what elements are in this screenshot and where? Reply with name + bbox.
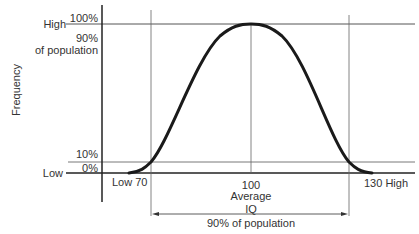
low70-label: Low 70 bbox=[112, 176, 147, 188]
of-population-label: of population bbox=[35, 44, 98, 56]
y-axis-label: Frequency bbox=[10, 64, 22, 116]
range-note-label: 90% of population bbox=[207, 217, 295, 229]
low-label: Low bbox=[43, 167, 63, 179]
bell-curve-diagram bbox=[0, 0, 419, 234]
arrow-left-icon bbox=[152, 212, 159, 216]
iq-label: IQ bbox=[245, 203, 257, 215]
average-label: Average bbox=[231, 190, 272, 202]
high130-label: 130 High bbox=[364, 177, 408, 189]
pct90-label: 90% bbox=[76, 32, 98, 44]
bell-curve bbox=[129, 24, 372, 173]
high-label: High bbox=[43, 18, 66, 30]
pct0-label: 0% bbox=[82, 162, 98, 174]
pct10-label: 10% bbox=[76, 148, 98, 160]
arrow-right-icon bbox=[341, 212, 348, 216]
pct100-label: 100% bbox=[70, 12, 98, 24]
